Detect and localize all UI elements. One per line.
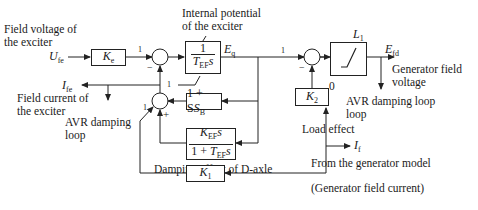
efd-signal: Efd	[385, 42, 399, 58]
sum3-minus-sign: −	[299, 62, 305, 73]
k2-block: K2	[295, 88, 329, 106]
ufe-signal: Ufe	[49, 49, 64, 65]
avr-damping-right-label-2: loop	[346, 108, 366, 120]
sum1-minus-sign: −	[147, 62, 153, 73]
eq-signal: Eq	[224, 42, 235, 58]
limiter-block	[330, 42, 367, 76]
integrator-block: 1 TEFs	[185, 41, 221, 74]
field-current-label: Field current of	[17, 92, 89, 104]
sum2-plus-sign: +	[163, 108, 169, 120]
if-signal: If	[354, 138, 361, 154]
avr-damping-left-label-2: loop	[65, 129, 85, 141]
limiter-zero-label: 0	[329, 80, 335, 92]
k1-block: K1	[186, 165, 225, 182]
from-gen-model-label: From the generator model	[311, 157, 431, 169]
field-voltage-label: Field voltage of	[4, 23, 77, 35]
internal-potential-label-2: of the exciter	[182, 20, 243, 32]
limiter-label: L1	[353, 27, 364, 43]
ke-block: Ke	[91, 49, 126, 66]
avr-damping-left-label: AVR damping	[65, 116, 131, 128]
saturation-block: 1 + SSB	[186, 93, 222, 110]
sum1-in-sign: 1	[138, 45, 142, 54]
load-effect-label: Load effect	[302, 123, 354, 135]
gen-field-voltage-label-2: voltage	[392, 76, 426, 88]
sum3-in-sign: 1	[281, 46, 285, 55]
gen-field-voltage-label: Generator field	[392, 63, 462, 75]
internal-potential-label: Internal potential	[182, 7, 261, 19]
sum1-fb-sign: 1	[167, 80, 171, 89]
field-current-label-2: the exciter	[17, 105, 65, 117]
avr-damping-right-label: AVR damping loop	[346, 95, 435, 107]
sum2-in-sign: 1	[143, 103, 147, 112]
gen-field-current-label: (Generator field current)	[311, 182, 424, 194]
field-voltage-label-2: the exciter	[4, 36, 52, 48]
damping-block: KEFs 1 + TEFs	[186, 128, 236, 160]
